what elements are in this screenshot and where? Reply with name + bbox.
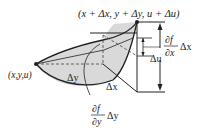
delta-y-label: Δy	[67, 72, 78, 83]
arrow-down-head	[158, 84, 163, 91]
partial-y-denominator: ∂y	[92, 116, 102, 127]
partial-x-numerator: ∂f	[165, 34, 174, 45]
top-point	[135, 20, 139, 24]
partial-x-factor: Δx	[180, 41, 191, 52]
delta-u-label: Δu	[150, 53, 161, 64]
origin-point	[34, 62, 38, 66]
origin-label: (x,y,u)	[8, 70, 32, 81]
arrow-up-head	[158, 23, 163, 30]
partial-x-arrow-head-down	[141, 52, 144, 56]
surface-differential-diagram: (x + Δx, y + Δy, u + Δu) (x,y,u) Δy Δx Δ…	[0, 0, 206, 139]
delta-x-label: Δx	[106, 81, 117, 92]
partial-y-numerator: ∂f	[92, 103, 101, 114]
partial-x-denominator: ∂x	[165, 47, 175, 58]
top-point-label: (x + Δx, y + Δy, u + Δu)	[78, 8, 180, 20]
partial-x-arrow-head-up	[141, 38, 144, 42]
partial-y-factor: Δy	[107, 110, 118, 121]
